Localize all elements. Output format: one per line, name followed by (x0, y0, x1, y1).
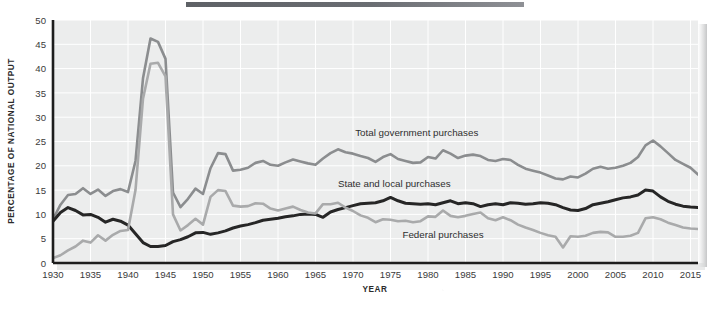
x-tick-label: 1940 (117, 269, 138, 280)
y-tick-label: 15 (35, 185, 46, 196)
y-axis-title: PERCENTAGE OF NATIONAL OUTPUT (7, 58, 16, 224)
y-tick-label: 10 (35, 209, 46, 220)
x-axis-title: YEAR (363, 285, 388, 294)
page-shadow-right (698, 24, 707, 267)
x-tick-label: 1945 (155, 269, 176, 280)
y-tick-label: 0 (41, 258, 46, 269)
x-tick-label: 1975 (380, 269, 401, 280)
series-label-1: Total government purchases (355, 127, 478, 138)
x-tick-labels: 1930193519401945195019551960196519701975… (42, 269, 701, 280)
series-label-3: Federal purchases (402, 229, 483, 240)
y-tick-label: 25 (35, 136, 46, 147)
x-tick-label: 1965 (305, 269, 326, 280)
x-tick-label: 2005 (605, 269, 626, 280)
y-tick-label: 50 (35, 15, 46, 26)
y-tick-labels: 05101520253035404550 (35, 15, 46, 269)
y-tick-label: 5 (41, 233, 46, 244)
y-tick-label: 30 (35, 112, 46, 123)
line-chart: 05101520253035404550 1930193519401945195… (0, 0, 714, 309)
x-tick-label: 2015 (680, 269, 701, 280)
x-tick-label: 1935 (80, 269, 101, 280)
x-tick-label: 2010 (642, 269, 663, 280)
x-tick-label: 1990 (492, 269, 513, 280)
y-tick-label: 45 (35, 39, 46, 50)
x-tick-label: 2000 (567, 269, 588, 280)
figure-root: 05101520253035404550 1930193519401945195… (0, 0, 714, 309)
y-tick-label: 40 (35, 63, 46, 74)
x-tick-label: 1985 (455, 269, 476, 280)
x-tick-label: 1960 (267, 269, 288, 280)
x-tick-label: 1955 (230, 269, 251, 280)
series-label-2: State and local purchases (338, 178, 451, 189)
y-tick-label: 35 (35, 88, 46, 99)
y-tick-label: 20 (35, 160, 46, 171)
x-tick-label: 1930 (42, 269, 63, 280)
x-tick-label: 1980 (417, 269, 438, 280)
x-tick-label: 1970 (342, 269, 363, 280)
x-tick-label: 1995 (530, 269, 551, 280)
x-tick-label: 1950 (192, 269, 213, 280)
